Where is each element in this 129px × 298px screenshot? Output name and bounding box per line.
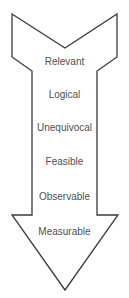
criterion-relevant: Relevant xyxy=(0,56,129,68)
down-arrow-shape xyxy=(0,0,129,298)
criterion-measurable: Measurable xyxy=(0,226,129,238)
criterion-feasible: Feasible xyxy=(0,156,129,168)
criterion-unequivocal: Unequivocal xyxy=(0,122,129,134)
criterion-logical: Logical xyxy=(0,89,129,101)
criterion-observable: Observable xyxy=(0,191,129,203)
